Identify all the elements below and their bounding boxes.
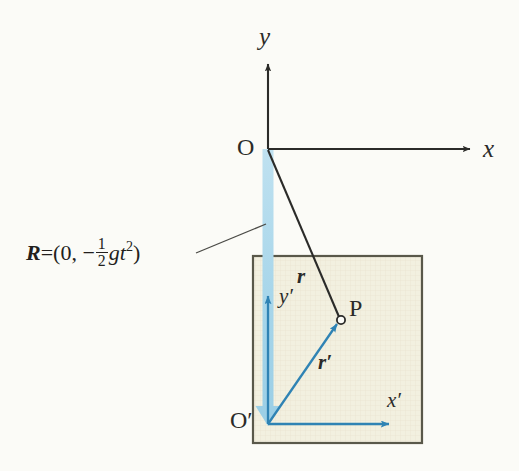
origin-prime-label: O′ xyxy=(230,408,253,432)
formula-first-component: 0, xyxy=(60,240,77,265)
vector-r-prime-label: r′ xyxy=(318,352,332,373)
origin-label: O xyxy=(237,135,254,159)
formula-close-paren: ) xyxy=(133,240,140,265)
formula-numerator: 1 xyxy=(96,236,108,252)
formula-minus: − xyxy=(82,240,94,265)
physics-vector-diagram: y x O O′ y′ x′ P r r′ R=(0, −12gt2) xyxy=(0,0,519,471)
y-axis-label: y xyxy=(259,24,270,49)
formula-g-symbol: g xyxy=(109,240,120,265)
point-p-marker xyxy=(337,316,345,324)
y-axis-prime-label: y′ xyxy=(279,286,293,307)
formula-t-exponent: 2 xyxy=(126,238,133,254)
vector-r-label: r xyxy=(297,266,305,287)
x-axis-prime-label: x′ xyxy=(387,390,401,411)
point-p-label: P xyxy=(349,296,362,320)
formula-denominator: 2 xyxy=(96,252,108,269)
formula-vector-symbol: R xyxy=(26,240,41,265)
x-axis-label: x xyxy=(483,136,494,161)
vector-R-formula: R=(0, −12gt2) xyxy=(26,236,140,269)
formula-fraction-one-half: 12 xyxy=(96,236,108,269)
formula-equals: = xyxy=(41,240,53,265)
leader-line xyxy=(196,224,266,253)
